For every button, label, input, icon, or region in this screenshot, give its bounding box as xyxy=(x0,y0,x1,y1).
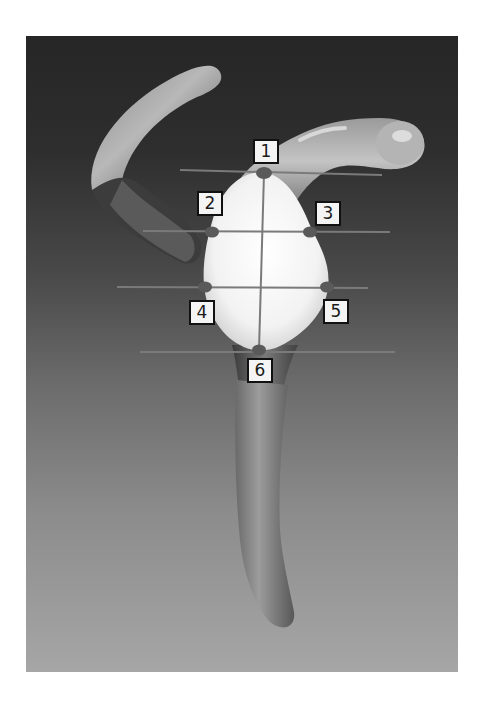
scapula-render xyxy=(26,36,458,672)
landmark-dot-1 xyxy=(256,167,272,179)
landmark-label-3: 3 xyxy=(315,201,341,226)
coracoid-process xyxy=(91,66,221,264)
landmark-dot-4 xyxy=(198,282,212,293)
landmark-label-4: 4 xyxy=(189,300,215,325)
landmark-dot-6 xyxy=(252,345,266,356)
scapular-body-shaft xyxy=(235,380,294,627)
landmark-label-6: 6 xyxy=(247,358,273,383)
landmark-label-1: 1 xyxy=(253,139,279,164)
landmark-dot-2 xyxy=(205,227,219,238)
landmark-label-5: 5 xyxy=(323,299,349,324)
landmark-dot-3 xyxy=(303,227,317,238)
figure-frame: 1 2 3 4 5 6 xyxy=(26,36,458,672)
landmark-label-2: 2 xyxy=(197,191,223,216)
upper-width-line xyxy=(143,231,390,232)
landmark-dot-5 xyxy=(320,282,334,293)
